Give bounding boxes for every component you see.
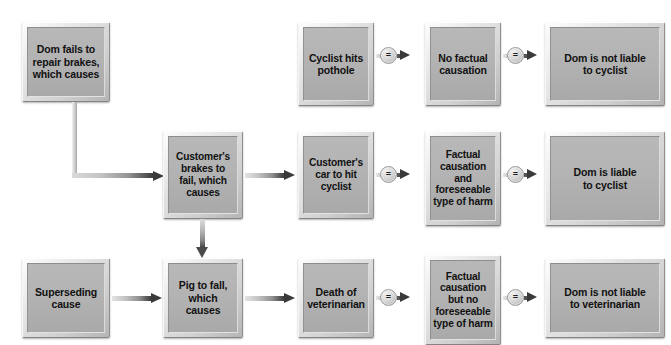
node-customer-brakes[interactable]: Customer's brakes to fail, which causes (163, 131, 243, 219)
arrow-customer-brakes-to-pig (196, 219, 209, 258)
node-body: Superseding cause (27, 263, 105, 333)
equals-circle-icon: = (380, 166, 397, 183)
equals-circle-icon: = (380, 289, 397, 306)
node-not-liable-vet[interactable]: Dom is not liable to veterinarian (545, 258, 665, 338)
node-label: Dom is liable to cyclist (572, 166, 639, 191)
node-body: Customer's car to hit cyclist (303, 136, 369, 214)
node-liable-cyclist[interactable]: Dom is liable to cyclist (545, 131, 665, 226)
arrow-head-icon (196, 247, 208, 258)
node-superseding-cause[interactable]: Superseding cause (22, 258, 110, 338)
node-not-liable-cyclist[interactable]: Dom is not liable to cyclist (545, 22, 665, 106)
node-label: Factual causation but no foreseeable typ… (431, 271, 494, 330)
node-customer-car[interactable]: Customer's car to hit cyclist (298, 131, 374, 219)
node-label: Cyclist hits pothole (307, 52, 365, 77)
node-body: Dom is not liable to cyclist (550, 27, 660, 101)
node-body: Factual causation but no foreseeable typ… (430, 260, 496, 340)
equals-circle-icon: = (507, 47, 524, 64)
node-cyclist-pothole[interactable]: Cyclist hits pothole (298, 22, 374, 106)
equals-symbol: = (386, 51, 391, 60)
equals-connector-5[interactable]: = (376, 289, 426, 307)
node-pig-to-fall[interactable]: Pig to fall, which causes (163, 258, 243, 338)
arrow-shaft (200, 219, 205, 247)
equals-circle-icon: = (507, 289, 524, 306)
equals-symbol: = (513, 170, 518, 179)
equals-circle-icon: = (507, 166, 524, 183)
elbow-horizontal-segment (72, 173, 153, 178)
node-label: Dom is not liable to veterinarian (562, 286, 647, 311)
node-body: Dom is liable to cyclist (550, 136, 660, 221)
node-body: Cyclist hits pothole (303, 27, 369, 101)
arrow-head-icon (151, 293, 162, 303)
equals-symbol: = (513, 293, 518, 302)
equals-connector-3[interactable]: = (376, 166, 426, 184)
node-no-factual-causation[interactable]: No factual causation (425, 22, 501, 106)
arrow-superseding-to-pig (112, 293, 162, 304)
node-label: No factual causation (436, 52, 489, 77)
equals-circle-icon: = (380, 47, 397, 64)
equals-connector-2[interactable]: = (503, 47, 547, 65)
arrow-head-icon (400, 169, 410, 179)
arrow-pig-to-death-vet (245, 293, 295, 304)
arrow-head-icon (400, 292, 410, 302)
node-label: Customer's car to hit cyclist (307, 157, 365, 192)
node-label: Dom fails to repair brakes, which causes (31, 43, 102, 80)
node-body: Death of veterinarian (303, 263, 369, 333)
arrow-head-icon (527, 292, 537, 302)
node-death-vet[interactable]: Death of veterinarian (298, 258, 374, 338)
node-body: Dom is not liable to veterinarian (550, 263, 660, 333)
arrow-shaft (245, 296, 284, 301)
node-label: Pig to fall, which causes (169, 279, 237, 316)
equals-symbol: = (386, 293, 391, 302)
node-label: Superseding cause (33, 286, 99, 311)
elbow-connector-dom-to-customer (72, 102, 164, 178)
elbow-vertical-segment (72, 102, 77, 178)
node-body: No factual causation (430, 27, 496, 101)
equals-symbol: = (513, 51, 518, 60)
node-label: Dom is not liable to cyclist (562, 52, 647, 77)
equals-symbol: = (386, 170, 391, 179)
node-body: Pig to fall, which causes (168, 263, 238, 333)
node-label: Customer's brakes to fail, which causes (174, 151, 232, 198)
node-factual-no-foreseeable[interactable]: Factual causation but no foreseeable typ… (425, 255, 501, 345)
node-body: Dom fails to repair brakes, which causes (27, 27, 105, 97)
equals-connector-6[interactable]: = (503, 289, 547, 307)
node-label: Death of veterinarian (305, 286, 367, 311)
arrow-head-icon (284, 293, 295, 303)
equals-connector-4[interactable]: = (503, 166, 547, 184)
arrow-shaft (245, 173, 284, 178)
arrow-head-icon (527, 169, 537, 179)
flowchart-canvas: Dom fails to repair brakes, which causes… (0, 0, 671, 345)
arrow-head-icon (400, 50, 410, 60)
node-label: Factual causation and foreseeable type o… (431, 149, 494, 208)
node-body: Customer's brakes to fail, which causes (168, 136, 238, 214)
arrow-customer-brakes-to-car (245, 170, 295, 181)
arrow-head-icon (527, 50, 537, 60)
node-dom-fails[interactable]: Dom fails to repair brakes, which causes (22, 22, 110, 102)
arrow-shaft (112, 296, 151, 301)
node-body: Factual causation and foreseeable type o… (430, 136, 496, 221)
node-factual-foreseeable[interactable]: Factual causation and foreseeable type o… (425, 131, 501, 226)
arrow-head-icon (284, 170, 295, 180)
